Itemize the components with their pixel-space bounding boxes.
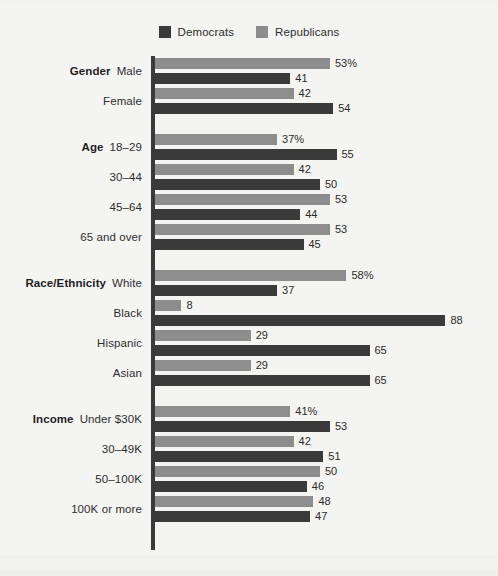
- bar-row-label: 50–100K: [95, 464, 151, 494]
- republican-bar-wrap: 48: [155, 496, 331, 507]
- democrat-bar-value: 88: [450, 315, 462, 326]
- democrat-bar: [155, 103, 333, 114]
- democrat-bar-value: 51: [328, 451, 340, 462]
- republican-bar: [155, 496, 313, 507]
- democrat-bar: [155, 239, 304, 250]
- democrat-bar-wrap: 45: [155, 239, 321, 250]
- subcategory-label: 100K or more: [71, 503, 142, 515]
- democrat-bar: [155, 179, 320, 190]
- bar-row-label: Female: [103, 86, 151, 116]
- bar-row: 50–100K5046: [0, 464, 498, 494]
- bar-row-label: Age18–29: [81, 132, 151, 162]
- republican-bar-value: 41%: [295, 406, 317, 417]
- democrat-bar-value: 37: [282, 285, 294, 296]
- legend-swatch-democrats: [159, 26, 171, 38]
- legend-item-republicans: Republicans: [256, 26, 339, 38]
- bar-row-label: 100K or more: [71, 494, 151, 524]
- subcategory-label: Black: [113, 307, 142, 319]
- democrat-bar: [155, 511, 310, 522]
- category-label: Age: [81, 141, 103, 153]
- bar-row: GenderMale53%41: [0, 56, 498, 86]
- bar-row-label: GenderMale: [70, 56, 151, 86]
- republican-bar-value: 53: [335, 194, 347, 205]
- republican-bar-value: 48: [318, 496, 330, 507]
- republican-bar-value: 53%: [335, 58, 357, 69]
- democrat-bar-value: 65: [375, 375, 387, 386]
- bar-row-label: 65 and over: [80, 222, 151, 252]
- subcategory-label: 45–64: [110, 201, 142, 213]
- democrat-bar: [155, 73, 290, 84]
- legend-label-democrats: Democrats: [178, 26, 235, 38]
- bar-row-label: Asian: [113, 358, 151, 388]
- bar-row: Hispanic2965: [0, 328, 498, 358]
- republican-bar: [155, 360, 251, 371]
- subcategory-label: 50–100K: [95, 473, 142, 485]
- republican-bar-wrap: 58%: [155, 270, 373, 281]
- republican-bar-value: 8: [186, 300, 192, 311]
- republican-bar-value: 42: [299, 436, 311, 447]
- republican-bar: [155, 194, 330, 205]
- democrat-bar-wrap: 54: [155, 103, 350, 114]
- democrat-bar-wrap: 51: [155, 451, 341, 462]
- bar-row: Race/EthnicityWhite58%37: [0, 268, 498, 298]
- democrat-bar-wrap: 44: [155, 209, 317, 220]
- republican-bar-value: 50: [325, 466, 337, 477]
- democrat-bar-value: 45: [309, 239, 321, 250]
- bar-row: IncomeUnder $30K41%53: [0, 404, 498, 434]
- plot-area: GenderMale53%41Female4254Age18–2937%5530…: [0, 56, 498, 552]
- bar-row: 45–645344: [0, 192, 498, 222]
- republican-bar-value: 58%: [351, 270, 373, 281]
- category-label: Income: [33, 413, 74, 425]
- bar-row: Female4254: [0, 86, 498, 116]
- subcategory-label: Female: [103, 95, 142, 107]
- democrat-bar-wrap: 55: [155, 149, 354, 160]
- bar-row-label: 30–44: [110, 162, 151, 192]
- democrat-bar-wrap: 65: [155, 375, 387, 386]
- category-label: Race/Ethnicity: [25, 277, 106, 289]
- bar-pair: 41%53: [155, 404, 498, 434]
- legend-item-democrats: Democrats: [159, 26, 235, 38]
- republican-bar-wrap: 50: [155, 466, 337, 477]
- republican-bar-wrap: 42: [155, 436, 311, 447]
- legend-label-republicans: Republicans: [275, 26, 339, 38]
- category-label: Gender: [70, 65, 111, 77]
- bar-pair: 4254: [155, 86, 498, 116]
- republican-bar: [155, 406, 290, 417]
- bar-row-label: Hispanic: [97, 328, 151, 358]
- republican-bar-value: 42: [299, 88, 311, 99]
- democrat-bar-value: 53: [335, 421, 347, 432]
- democrat-bar: [155, 315, 445, 326]
- bar-row: 100K or more4847: [0, 494, 498, 524]
- republican-bar-wrap: 53: [155, 224, 347, 235]
- bar-row-label: 45–64: [110, 192, 151, 222]
- subcategory-label: Asian: [113, 367, 142, 379]
- bar-group-income: IncomeUnder $30K41%5330–49K425150–100K50…: [0, 404, 498, 524]
- bar-group-age: Age18–2937%5530–44425045–64534465 and ov…: [0, 132, 498, 252]
- subcategory-label: Hispanic: [97, 337, 142, 349]
- republican-bar-wrap: 37%: [155, 134, 304, 145]
- republican-bar: [155, 300, 181, 311]
- subcategory-label: Male: [117, 65, 142, 77]
- democrat-bar-value: 54: [338, 103, 350, 114]
- bar-pair: 888: [155, 298, 498, 328]
- republican-bar: [155, 224, 330, 235]
- democrat-bar: [155, 451, 323, 462]
- democrat-bar-value: 47: [315, 511, 327, 522]
- democrat-bar: [155, 285, 277, 296]
- republican-bar: [155, 466, 320, 477]
- democrat-bar-value: 65: [375, 345, 387, 356]
- bar-row-label: Black: [113, 298, 151, 328]
- democrat-bar-wrap: 47: [155, 511, 327, 522]
- bar-row: Asian2965: [0, 358, 498, 388]
- chart-legend: Democrats Republicans: [0, 26, 498, 38]
- bar-pair: 37%55: [155, 132, 498, 162]
- republican-bar-value: 29: [256, 330, 268, 341]
- bar-row: Black888: [0, 298, 498, 328]
- bar-row: 30–444250: [0, 162, 498, 192]
- democrat-bar-value: 41: [295, 73, 307, 84]
- bar-row: Age18–2937%55: [0, 132, 498, 162]
- republican-bar-value: 37%: [282, 134, 304, 145]
- subcategory-label: 30–49K: [102, 443, 142, 455]
- bar-group-gender: GenderMale53%41Female4254: [0, 56, 498, 116]
- democrat-bar-value: 55: [342, 149, 354, 160]
